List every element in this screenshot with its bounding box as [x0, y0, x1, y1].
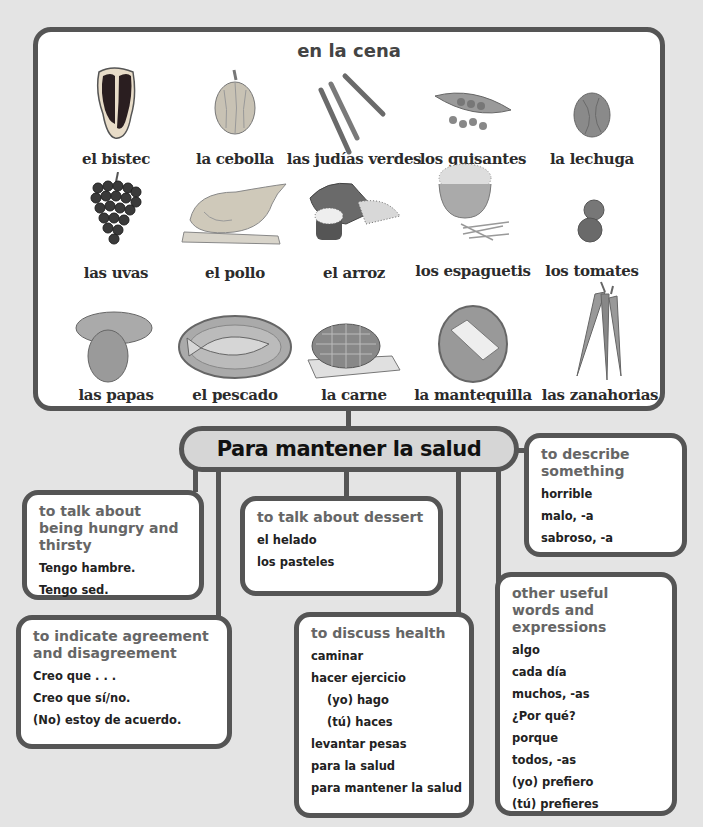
vocab-item: horrible [541, 483, 670, 505]
box-heading: to talk about being hungry and thirsty [39, 503, 187, 554]
vocab-item: el helado [257, 529, 426, 551]
box-heading: other useful words and expressions [512, 585, 660, 636]
vocab-item: ¿Por qué? [512, 705, 660, 727]
connector-hungry [193, 470, 198, 492]
box-other-words: other useful words and expressions algo … [495, 572, 677, 816]
food-label: los tomates [520, 262, 664, 280]
connector-dessert [344, 470, 349, 498]
box-heading: to indicate agreement and disagreement [33, 628, 215, 662]
vocab-item: sabroso, -a [541, 527, 670, 549]
food-label: las zanahorias [528, 386, 672, 404]
grapes-icon [86, 172, 146, 248]
central-title: Para mantener la salud [179, 426, 519, 472]
vocab-item: (yo) hago [311, 689, 457, 711]
vocab-item: caminar [311, 645, 457, 667]
vocab-item: (yo) prefiero [512, 771, 660, 793]
food-panel: en la cena el bistec la cebolla las judí… [33, 27, 665, 411]
box-describe: to describe something horrible malo, -a … [524, 433, 687, 557]
butter-icon [433, 304, 513, 384]
vocab-item: (tú) haces [311, 711, 457, 733]
vocab-item: porque [512, 727, 660, 749]
vocab-item: los pasteles [257, 551, 426, 573]
tomatoes-icon [574, 198, 610, 246]
vocab-item: todos, -as [512, 749, 660, 771]
box-agreement: to indicate agreement and disagreement C… [16, 615, 232, 749]
panel-title: en la cena [38, 40, 660, 61]
carrots-icon [565, 280, 635, 384]
onion-icon [210, 66, 260, 142]
vocab-item: Tengo hambre. [39, 557, 187, 579]
vocab-item: algo [512, 639, 660, 661]
peas-icon [433, 86, 513, 146]
steak-icon [93, 66, 139, 142]
vocab-item: Creo que . . . [33, 665, 215, 687]
rice-icon [306, 180, 402, 246]
box-heading: to describe something [541, 446, 670, 480]
vocab-item: (No) estoy de acuerdo. [33, 709, 215, 731]
vocab-item: Tengo sed. [39, 579, 187, 601]
vocab-item: (tú) prefieres [512, 793, 660, 815]
vocab-item: hacer ejercicio [311, 667, 457, 689]
box-dessert: to talk about dessert el helado los past… [240, 496, 443, 596]
vocab-item: para la salud [311, 755, 457, 777]
box-hungry-thirsty: to talk about being hungry and thirsty T… [22, 490, 204, 600]
roast-meat-icon [306, 320, 402, 380]
vocab-item: malo, -a [541, 505, 670, 527]
vocab-item: Creo que sí/no. [33, 687, 215, 709]
vocab-item: levantar pesas [311, 733, 457, 755]
green-beans-icon [317, 66, 391, 156]
spaghetti-icon [433, 162, 513, 248]
lettuce-icon [571, 90, 613, 140]
food-label: la mantequilla [401, 386, 545, 404]
food-label: la lechuga [520, 150, 664, 168]
potatoes-icon [74, 308, 158, 384]
box-heading: to discuss health [311, 625, 457, 642]
vocab-item: para mantener la salud [311, 777, 457, 799]
vocab-item: muchos, -as [512, 683, 660, 705]
chicken-icon [180, 180, 290, 246]
connector-health [456, 470, 461, 614]
box-heading: to talk about dessert [257, 509, 426, 526]
vocab-item: cada día [512, 661, 660, 683]
box-health: to discuss health caminar hacer ejercici… [294, 612, 474, 818]
fish-platter-icon [177, 314, 293, 380]
connector-agreement [216, 470, 221, 618]
